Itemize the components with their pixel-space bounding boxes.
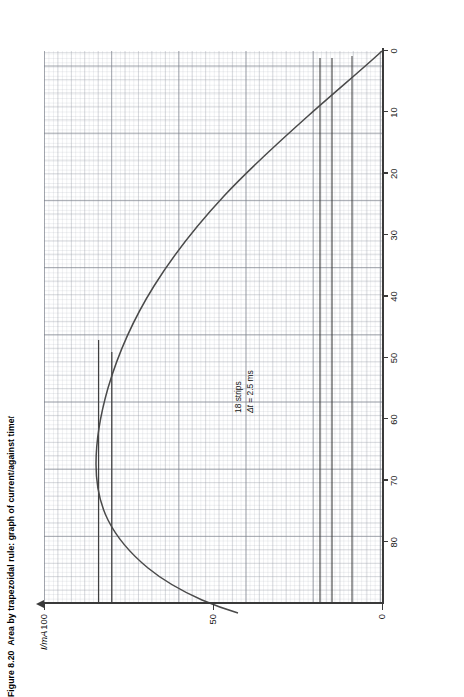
- y-tick-100: [44, 604, 45, 610]
- strips-annotation: 18 strips Δt = 2.5 ms: [232, 370, 256, 413]
- x-tick-label-70: 70: [389, 476, 398, 486]
- delta-t-value: = 2.5 ms: [245, 370, 255, 405]
- y-tick-label-0: 0: [377, 614, 386, 634]
- y-axis-arrow-icon: [36, 601, 44, 609]
- x-tick-label-20: 20: [389, 169, 398, 179]
- strips-annotation-line1: 18 strips: [232, 370, 244, 413]
- y-tick-50: [213, 604, 214, 610]
- plot-area: I/mA 0 50 100 0 10 20 30 40: [36, 40, 428, 656]
- x-axis-line: [382, 48, 384, 604]
- strips-annotation-line2: Δt = 2.5 ms: [244, 370, 256, 413]
- curve-layer: [36, 40, 428, 656]
- x-tick-label-40: 40: [389, 291, 398, 301]
- delta-t-symbol: Δt: [245, 405, 255, 413]
- plot-rotation-container: I/mA 0 50 100 0 10 20 30 40: [36, 40, 428, 656]
- y-tick-label-50: 50: [208, 614, 217, 634]
- x-tick-label-60: 60: [389, 414, 398, 424]
- y-tick-0: [382, 604, 383, 610]
- x-tick-label-0: 0: [389, 48, 398, 53]
- x-tick-label-10: 10: [389, 107, 398, 117]
- x-tick-label-50: 50: [389, 353, 398, 363]
- current-vs-time-curve: [96, 51, 382, 613]
- y-tick-label-100: 100: [39, 614, 48, 634]
- x-tick-label-30: 30: [389, 230, 398, 240]
- x-tick-label-80: 80: [389, 537, 398, 547]
